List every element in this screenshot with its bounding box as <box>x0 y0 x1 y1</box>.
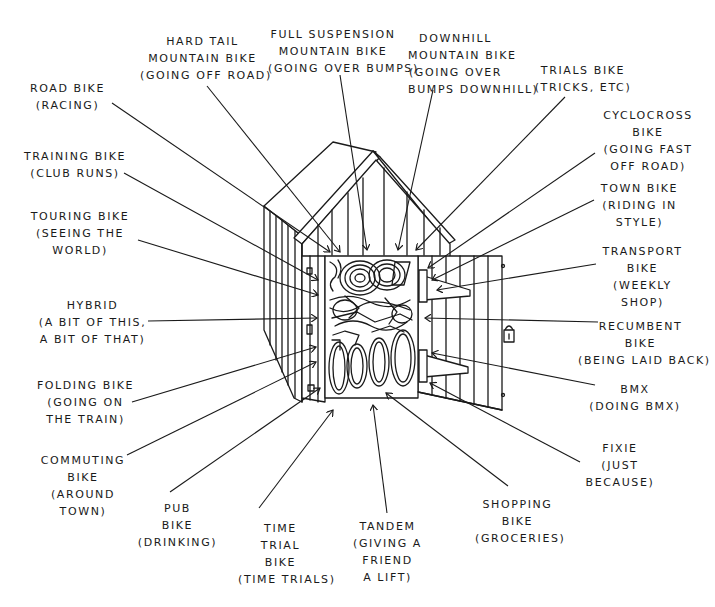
bikes-crammed-inside <box>325 256 418 398</box>
label-touring-bike: TOURING BIKE(SEEING THE WORLD) <box>25 208 135 259</box>
label-description: (GIVING A FRIEND A LIFT) <box>345 535 430 586</box>
label-name: HYBRID <box>30 297 155 314</box>
label-time-trial-bike: TIME TRIAL BIKE(TIME TRIALS) <box>238 520 323 588</box>
label-tandem-bike: TANDEM(GIVING A FRIEND A LIFT) <box>345 518 430 586</box>
label-description: (SEEING THE WORLD) <box>25 225 135 259</box>
label-name: ROAD BIKE <box>25 80 110 97</box>
label-description: (GOING FAST OFF ROAD) <box>598 141 698 175</box>
label-description: (GOING OVER BUMPS DOWNHILL) <box>408 64 503 98</box>
label-name: HARD TAIL MOUNTAIN BIKE <box>140 33 265 67</box>
label-town-bike: TOWN BIKE(RIDING IN STYLE) <box>597 180 682 231</box>
label-description: (RIDING IN STYLE) <box>597 197 682 231</box>
label-trials-bike: TRIALS BIKE(TRICKS, ETC) <box>528 62 638 96</box>
label-name: TRAINING BIKE <box>20 148 130 165</box>
label-name: PUB BIKE <box>135 500 220 534</box>
label-description: (BEING LAID BACK) <box>578 352 703 369</box>
label-description: (WEEKLY SHOP) <box>600 277 685 311</box>
label-description: (RACING) <box>25 97 110 114</box>
label-name: FULL SUSPENSION MOUNTAIN BIKE <box>268 26 398 60</box>
label-name: SHOPPING BIKE <box>475 496 560 530</box>
label-description: (GROCERIES) <box>475 530 560 547</box>
label-downhill-bike: DOWNHILL MOUNTAIN BIKE(GOING OVER BUMPS … <box>408 30 503 98</box>
label-name: CYCLOCROSS BIKE <box>598 107 698 141</box>
label-commuting-bike: COMMUTING BIKE(AROUND TOWN) <box>38 452 128 520</box>
label-name: TRIALS BIKE <box>528 62 638 79</box>
label-description: (CLUB RUNS) <box>20 165 130 182</box>
label-name: TOWN BIKE <box>597 180 682 197</box>
label-description: (GOING OFF ROAD) <box>140 67 265 84</box>
label-cyclocross-bike: CYCLOCROSS BIKE(GOING FAST OFF ROAD) <box>598 107 698 175</box>
label-description: (TRICKS, ETC) <box>528 79 638 96</box>
leader-line-time-trial <box>259 410 333 508</box>
label-transport-bike: TRANSPORT BIKE(WEEKLY SHOP) <box>600 243 685 311</box>
leader-line-commuting <box>127 362 316 455</box>
leader-line-tandem <box>373 405 387 513</box>
label-pub-bike: PUB BIKE(DRINKING) <box>135 500 220 551</box>
bike-shed-diagram: HARD TAIL MOUNTAIN BIKE(GOING OFF ROAD)F… <box>0 0 715 607</box>
label-bmx-bike: BMX(DOING BMX) <box>585 381 685 415</box>
label-description: (TIME TRIALS) <box>238 571 323 588</box>
label-folding-bike: FOLDING BIKE(GOING ON THE TRAIN) <box>33 377 138 428</box>
label-description: (DRINKING) <box>135 534 220 551</box>
label-description: (GOING ON THE TRAIN) <box>33 394 138 428</box>
label-description: (AROUND TOWN) <box>38 486 128 520</box>
label-name: FOLDING BIKE <box>33 377 138 394</box>
label-name: TRANSPORT BIKE <box>600 243 685 277</box>
label-hybrid-bike: HYBRID(A BIT OF THIS, A BIT OF THAT) <box>30 297 155 348</box>
leader-line-pub <box>170 388 320 492</box>
label-fixie-bike: FIXIE(JUST BECAUSE) <box>580 440 660 491</box>
shed-right-door <box>418 256 514 410</box>
label-description: (A BIT OF THIS, A BIT OF THAT) <box>30 314 155 348</box>
label-description: (DOING BMX) <box>585 398 685 415</box>
padlock-icon <box>504 326 514 342</box>
label-name: DOWNHILL MOUNTAIN BIKE <box>408 30 503 64</box>
label-hard-tail-bike: HARD TAIL MOUNTAIN BIKE(GOING OFF ROAD) <box>140 33 265 84</box>
leader-line-cyclocross <box>428 153 595 268</box>
label-road-bike: ROAD BIKE(RACING) <box>25 80 110 114</box>
label-description: (GOING OVER BUMPS) <box>268 60 398 77</box>
leader-line-trials <box>416 97 565 250</box>
label-training-bike: TRAINING BIKE(CLUB RUNS) <box>20 148 130 182</box>
label-name: BMX <box>585 381 685 398</box>
label-name: TIME TRIAL BIKE <box>238 520 323 571</box>
label-name: TANDEM <box>345 518 430 535</box>
label-full-suspension-bike: FULL SUSPENSION MOUNTAIN BIKE(GOING OVER… <box>268 26 398 77</box>
label-name: FIXIE <box>580 440 660 457</box>
label-description: (JUST BECAUSE) <box>580 457 660 491</box>
label-name: COMMUTING BIKE <box>38 452 128 486</box>
label-shopping-bike: SHOPPING BIKE(GROCERIES) <box>475 496 560 547</box>
label-recumbent-bike: RECUMBENT BIKE(BEING LAID BACK) <box>578 318 703 369</box>
label-name: TOURING BIKE <box>25 208 135 225</box>
label-name: RECUMBENT BIKE <box>578 318 703 352</box>
